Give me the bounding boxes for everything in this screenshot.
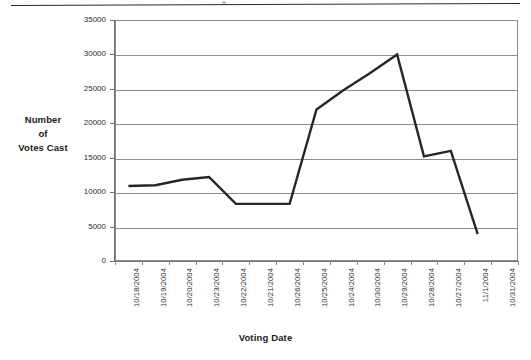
- x-axis-spine: [114, 261, 518, 262]
- x-axis-tick-label: 10/20/2004: [185, 268, 194, 328]
- x-axis-tick: [115, 261, 116, 265]
- y-axis-tick-label: 30000: [62, 50, 106, 58]
- gridline: [116, 193, 517, 194]
- y-axis-tick-label: 25000: [62, 85, 106, 93]
- line-chart-figure: Number of Votes Cast 3500030000250002000…: [0, 0, 531, 360]
- x-axis-tick: [222, 261, 223, 265]
- y-axis-tick-label: 35000: [62, 16, 106, 24]
- x-axis-tick: [196, 261, 197, 265]
- x-axis-tick-label: 10/30/2004: [373, 268, 382, 328]
- x-axis-tick-label: 10/18/2004: [132, 268, 141, 328]
- x-axis-tick-label: 10/29/2004: [400, 268, 409, 328]
- y-axis-title-line-2: of: [6, 127, 80, 141]
- y-axis-tick-label: 0: [62, 257, 106, 265]
- gridline: [116, 124, 517, 125]
- x-axis-tick: [384, 261, 385, 265]
- x-axis-tick-label: 10/26/2004: [293, 268, 302, 328]
- x-axis-tick: [357, 261, 358, 265]
- gridline: [116, 228, 517, 229]
- gridline: [116, 90, 517, 91]
- x-axis-tick: [142, 261, 143, 265]
- x-axis-tick: [518, 261, 519, 265]
- gridline: [116, 159, 517, 160]
- x-axis-tick-label: 10/21/2004: [266, 268, 275, 328]
- x-axis-tick: [169, 261, 170, 265]
- x-axis-tick: [411, 261, 412, 265]
- x-axis-tick: [330, 261, 331, 265]
- plot-area: [115, 20, 518, 261]
- y-axis-tick-label: 20000: [62, 119, 106, 127]
- x-axis-tick-label: 10/28/2004: [427, 268, 436, 328]
- x-axis-tick-label: 10/27/2004: [454, 268, 463, 328]
- y-axis-tick-label: 10000: [62, 188, 106, 196]
- gridline: [116, 55, 517, 56]
- x-axis-tick-label: 10/31/2004: [508, 268, 517, 328]
- x-axis-tick: [464, 261, 465, 265]
- x-axis-tick-label: 10/25/2004: [320, 268, 329, 328]
- x-axis-tick-label: 11/1/2004: [481, 268, 490, 328]
- x-axis-tick-label: 10/19/2004: [159, 268, 168, 328]
- x-axis-title: Voting Date: [0, 332, 531, 343]
- x-axis-tick: [437, 261, 438, 265]
- x-axis-tick: [249, 261, 250, 265]
- y-axis-tick-label: 5000: [62, 223, 106, 231]
- x-axis-tick: [491, 261, 492, 265]
- x-axis-tick: [276, 261, 277, 265]
- x-axis-tick-label: 10/23/2004: [212, 268, 221, 328]
- y-axis-tick-label: 15000: [62, 154, 106, 162]
- x-axis-tick-label: 10/24/2004: [347, 268, 356, 328]
- x-axis-tick: [303, 261, 304, 265]
- x-axis-tick-label: 10/22/2004: [239, 268, 248, 328]
